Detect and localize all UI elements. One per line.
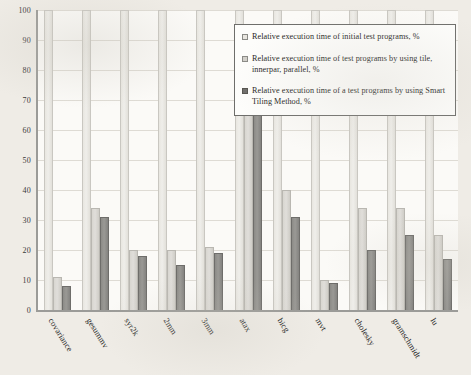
legend-label: Relative execution time of a test progra… bbox=[252, 86, 449, 108]
bar bbox=[443, 259, 452, 310]
x-axis-tick-label: 3mm bbox=[199, 316, 217, 336]
bar bbox=[434, 235, 443, 310]
x-axis-tick-label: bicg bbox=[276, 316, 292, 334]
x-axis: covariancegesummvsyr2k2mm3mmataxbicgmvtc… bbox=[38, 314, 458, 372]
x-axis-tick-label: atax bbox=[238, 316, 254, 334]
y-axis-tick-label: 70 bbox=[23, 96, 31, 105]
bar bbox=[44, 10, 53, 310]
bar bbox=[120, 10, 129, 310]
bar bbox=[405, 235, 414, 310]
bar bbox=[176, 265, 185, 310]
legend-swatch-icon bbox=[242, 88, 248, 94]
chart-legend: Relative execution time of initial test … bbox=[234, 24, 456, 116]
y-axis-tick-label: 40 bbox=[23, 186, 31, 195]
legend-item: Relative execution time of initial test … bbox=[242, 32, 449, 43]
bar bbox=[62, 286, 71, 310]
x-axis-tick: gesummv bbox=[76, 314, 114, 372]
y-axis-tick-label: 0 bbox=[27, 306, 31, 315]
x-axis-tick-label: mvt bbox=[314, 316, 330, 333]
bar bbox=[291, 217, 300, 310]
bar bbox=[253, 106, 262, 310]
y-axis-tick-label: 20 bbox=[23, 246, 31, 255]
y-axis-tick-label: 50 bbox=[23, 156, 31, 165]
bar bbox=[214, 253, 223, 310]
bar bbox=[91, 208, 100, 310]
y-axis-tick-label: 90 bbox=[23, 36, 31, 45]
x-axis-tick-label: 2mm bbox=[161, 316, 179, 336]
legend-item: Relative execution time of a test progra… bbox=[242, 86, 449, 108]
bar bbox=[367, 250, 376, 310]
bar bbox=[82, 10, 91, 310]
bar bbox=[205, 247, 214, 310]
bar bbox=[129, 250, 138, 310]
bar bbox=[100, 217, 109, 310]
y-axis-tick-label: 30 bbox=[23, 216, 31, 225]
x-axis-tick-label: gramschmidt bbox=[390, 316, 423, 360]
y-axis: 1009080706050403020100 bbox=[0, 10, 31, 312]
bar-group bbox=[76, 10, 114, 310]
x-axis-tick: cholesky bbox=[344, 314, 382, 372]
x-axis-tick: 2mm bbox=[153, 314, 191, 372]
bar bbox=[196, 10, 205, 310]
x-axis-tick-label: cholesky bbox=[352, 316, 377, 348]
y-axis-tick-label: 10 bbox=[23, 276, 31, 285]
x-axis-tick-label: lu bbox=[428, 316, 440, 327]
bar-chart: 1009080706050403020100 covariancegesummv… bbox=[0, 0, 471, 375]
x-axis-tick: lu bbox=[420, 314, 458, 372]
bar bbox=[396, 208, 405, 310]
bar bbox=[329, 283, 338, 310]
y-axis-tick-label: 80 bbox=[23, 66, 31, 75]
x-axis-tick: atax bbox=[229, 314, 267, 372]
x-axis-tick-label: covariance bbox=[47, 316, 76, 353]
x-axis-tick: mvt bbox=[305, 314, 343, 372]
bar bbox=[358, 208, 367, 310]
bar-group bbox=[153, 10, 191, 310]
x-axis-tick: bicg bbox=[267, 314, 305, 372]
bar bbox=[53, 277, 62, 310]
bar bbox=[158, 10, 167, 310]
legend-label: Relative execution time of test programs… bbox=[252, 54, 449, 76]
bar-group bbox=[38, 10, 76, 310]
bar bbox=[320, 280, 329, 310]
x-axis-tick: 3mm bbox=[191, 314, 229, 372]
x-axis-tick: syr2k bbox=[114, 314, 152, 372]
legend-item: Relative execution time of test programs… bbox=[242, 54, 449, 76]
x-axis-tick-label: syr2k bbox=[123, 316, 142, 338]
y-axis-tick-label: 100 bbox=[18, 6, 31, 15]
bar bbox=[167, 250, 176, 310]
legend-swatch-icon bbox=[242, 56, 248, 62]
bar-group bbox=[114, 10, 152, 310]
y-axis-tick-label: 60 bbox=[23, 126, 31, 135]
bar-group bbox=[191, 10, 229, 310]
legend-swatch-icon bbox=[242, 34, 248, 40]
legend-label: Relative execution time of initial test … bbox=[252, 32, 420, 43]
x-axis-tick: covariance bbox=[38, 314, 76, 372]
bar bbox=[138, 256, 147, 310]
x-axis-tick-label: gesummv bbox=[85, 316, 111, 350]
bar bbox=[282, 190, 291, 310]
x-axis-tick: gramschmidt bbox=[382, 314, 420, 372]
